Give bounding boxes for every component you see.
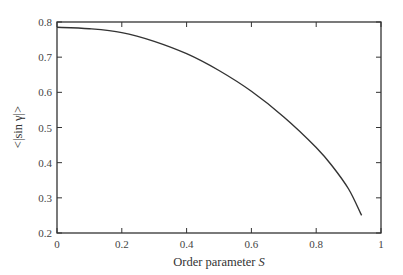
data-curve (57, 27, 362, 215)
y-tick-label: 0.7 (38, 51, 52, 63)
y-axis-label: <|sin γ|> (11, 106, 25, 148)
y-tick-label: 0.6 (38, 86, 52, 98)
y-tick-label: 0.8 (38, 16, 52, 28)
x-axis-label: Order parameter S (173, 255, 265, 269)
x-tick-label: 0.8 (309, 238, 323, 250)
y-axis-ticks: 0.20.30.40.50.60.70.8 (38, 16, 381, 239)
y-tick-label: 0.5 (38, 122, 52, 134)
y-tick-label: 0.2 (38, 227, 52, 239)
x-tick-label: 0.4 (180, 238, 194, 250)
plot-frame (57, 22, 381, 233)
x-tick-label: 0.6 (245, 238, 259, 250)
x-axis-ticks: 00.20.40.60.81 (54, 22, 384, 250)
line-chart: 00.20.40.60.81 0.20.30.40.50.60.70.8 Ord… (0, 0, 403, 275)
y-tick-label: 0.4 (38, 157, 52, 169)
y-tick-label: 0.3 (38, 192, 52, 204)
x-tick-label: 1 (378, 238, 384, 250)
x-tick-label: 0 (54, 238, 60, 250)
x-tick-label: 0.2 (115, 238, 129, 250)
